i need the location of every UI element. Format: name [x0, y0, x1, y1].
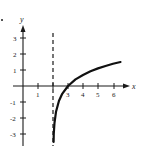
x-tick-5: 5 [96, 91, 100, 99]
y-tick-2: 2 [13, 51, 17, 59]
y-tick-m2: -2 [10, 115, 16, 123]
x-axis-arrow-icon [123, 84, 130, 89]
stray-mark [1, 19, 3, 21]
y-tick-m1: -1 [10, 99, 16, 107]
x-axis-label: x [131, 82, 136, 91]
y-tick-1: 1 [13, 67, 17, 75]
y-tick-m3: -3 [10, 131, 16, 139]
y-tick-3: 3 [13, 35, 17, 43]
x-tick-3: 3 [66, 91, 70, 99]
x-axis: x 1 3 4 5 6 [13, 82, 136, 99]
y-axis-label: y [19, 15, 24, 24]
y-axis: y 3 2 1 -1 -2 -3 [10, 15, 26, 146]
x-tick-4: 4 [81, 91, 85, 99]
x-tick-6: 6 [112, 91, 116, 99]
chart: x 1 3 4 5 6 y 3 2 1 -1 -2 -3 [0, 0, 141, 147]
y-axis-arrow-icon [21, 25, 26, 32]
x-tick-1: 1 [36, 91, 40, 99]
function-curve [54, 62, 121, 142]
